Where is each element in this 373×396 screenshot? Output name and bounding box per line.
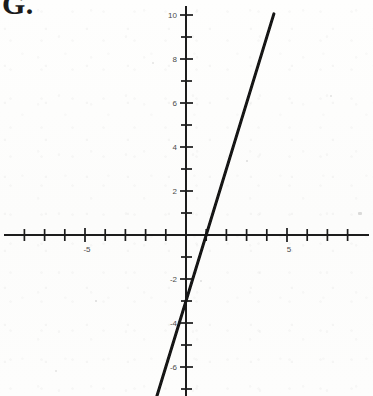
- y-tick-label: 6: [173, 99, 178, 108]
- axis-lines: [4, 6, 369, 396]
- y-tick-label: 8: [173, 55, 178, 64]
- x-axis-tick-labels: -55: [83, 245, 291, 254]
- y-tick-label: 4: [173, 143, 178, 152]
- cartesian-plot: 108642-2-4-6 -55: [0, 0, 373, 396]
- y-tick-label: 2: [173, 187, 178, 196]
- y-axis-tick-labels: 108642-2-4-6: [168, 11, 177, 372]
- x-tick-label: -5: [83, 245, 91, 254]
- x-tick-label: 5: [287, 245, 292, 254]
- plotted-line-series: [157, 14, 274, 396]
- scanned-graph-page: G.: [0, 0, 373, 396]
- y-tick-label: -6: [170, 363, 178, 372]
- y-tick-label: -2: [170, 275, 178, 284]
- y-tick-label: -4: [170, 319, 178, 328]
- y-tick-label: 10: [168, 11, 177, 20]
